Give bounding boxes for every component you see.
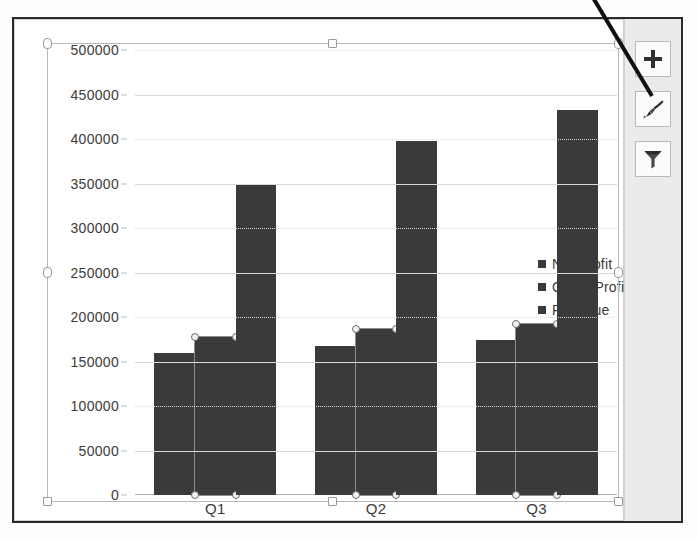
series-selection-handle[interactable]	[191, 333, 199, 341]
series-selection-handle[interactable]	[352, 325, 360, 333]
figure-frame: 5000004500004000003500003000002500002000…	[12, 17, 683, 523]
y-axis-tick-label: 400000	[70, 131, 119, 147]
bar-net-profit[interactable]	[315, 346, 356, 495]
y-axis-tick-label: 50000	[79, 443, 119, 459]
legend-item[interactable]: Gross Profit	[538, 275, 633, 298]
chart-styles-button[interactable]	[635, 91, 671, 127]
gridline	[135, 451, 617, 452]
legend-item-label: Gross Profit	[552, 279, 628, 295]
selection-handle-middle-left[interactable]	[43, 267, 52, 278]
gridline	[135, 362, 617, 363]
legend-item-label: Revenue	[552, 302, 609, 318]
chart-elements-button[interactable]	[635, 41, 671, 77]
legend-swatch-icon	[538, 283, 546, 291]
y-axis-tick-mark	[121, 50, 127, 51]
y-axis[interactable]: 5000004500004000003500003000002500002000…	[57, 50, 127, 495]
selection-handle-top-right[interactable]	[614, 38, 623, 49]
x-axis-category-label: Q1	[135, 500, 296, 517]
chart-side-button-strip	[624, 19, 681, 521]
y-axis-tick-label: 0	[111, 487, 119, 503]
chart-plot-wrapper: 5000004500004000003500003000002500002000…	[57, 50, 617, 512]
x-axis-category-label: Q2	[296, 500, 457, 517]
y-axis-tick-label: 500000	[70, 42, 119, 58]
y-axis-tick-label: 100000	[70, 398, 119, 414]
bar-gross-profit[interactable]	[516, 324, 557, 495]
y-axis-tick-label: 250000	[70, 265, 119, 281]
gridline	[135, 95, 617, 96]
series-selection-handle[interactable]	[512, 491, 520, 499]
y-axis-tick-mark	[121, 183, 127, 184]
gridline	[135, 228, 617, 230]
legend-item[interactable]: Revenue	[538, 298, 633, 321]
gridline	[135, 139, 617, 141]
excel-chart-object[interactable]: 5000004500004000003500003000002500002000…	[14, 19, 624, 521]
funnel-icon	[642, 148, 664, 170]
bar-net-profit[interactable]	[154, 353, 195, 495]
legend-swatch-icon	[538, 306, 546, 314]
series-selection-handle[interactable]	[352, 491, 360, 499]
gridline	[135, 184, 617, 185]
gridline	[135, 406, 617, 408]
y-axis-tick-mark	[121, 495, 127, 496]
series-selection-handle[interactable]	[512, 320, 520, 328]
y-axis-tick-mark	[121, 450, 127, 451]
chart-filters-button[interactable]	[635, 141, 671, 177]
paintbrush-icon	[641, 97, 665, 121]
y-axis-tick-label: 200000	[70, 309, 119, 325]
screenshot-root: 5000004500004000003500003000002500002000…	[0, 0, 697, 539]
y-axis-tick-label: 450000	[70, 87, 119, 103]
legend-swatch-icon	[538, 260, 546, 268]
y-axis-tick-mark	[121, 406, 127, 407]
y-axis-tick-mark	[121, 94, 127, 95]
y-axis-tick-mark	[121, 361, 127, 362]
y-axis-tick-mark	[121, 228, 127, 229]
bar-gross-profit[interactable]	[195, 337, 236, 495]
y-axis-tick-label: 350000	[70, 176, 119, 192]
series-selection-handle[interactable]	[191, 491, 199, 499]
x-axis-labels[interactable]: Q1Q2Q3	[135, 500, 617, 517]
bar-gross-profit[interactable]	[356, 329, 397, 495]
chart-legend[interactable]: Net ProfitGross ProfitRevenue	[538, 252, 633, 321]
y-axis-tick-mark	[121, 317, 127, 318]
bar-net-profit[interactable]	[476, 340, 517, 495]
y-axis-tick-mark	[121, 139, 127, 140]
y-axis-tick-label: 300000	[70, 220, 119, 236]
plus-icon	[642, 48, 664, 70]
gridline	[135, 50, 617, 52]
x-axis-category-label: Q3	[456, 500, 617, 517]
selection-handle-top-center[interactable]	[328, 39, 337, 48]
selection-handle-bottom-left[interactable]	[43, 497, 52, 506]
legend-item-label: Net Profit	[552, 256, 612, 272]
y-axis-tick-mark	[121, 272, 127, 273]
bar-revenue[interactable]	[236, 184, 277, 496]
selection-handle-top-left[interactable]	[43, 38, 52, 49]
legend-item[interactable]: Net Profit	[538, 252, 633, 275]
y-axis-tick-label: 150000	[70, 354, 119, 370]
